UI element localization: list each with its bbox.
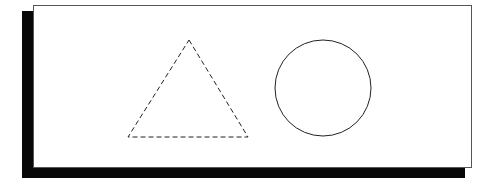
white-card <box>33 5 472 168</box>
canvas-root <box>0 0 496 187</box>
card-shadow-horizontal <box>22 167 465 178</box>
card-shadow-vertical <box>22 11 33 178</box>
